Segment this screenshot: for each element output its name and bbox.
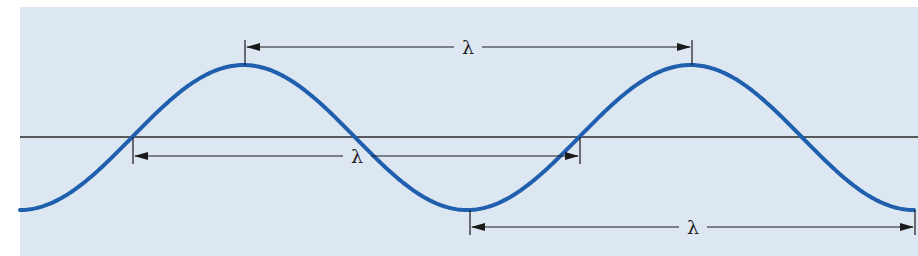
wavelength-label: λ	[351, 145, 363, 167]
wavelength-diagram: λ λ λ	[0, 0, 918, 256]
wavelength-label: λ	[687, 216, 699, 238]
wavelength-label: λ	[462, 36, 474, 58]
